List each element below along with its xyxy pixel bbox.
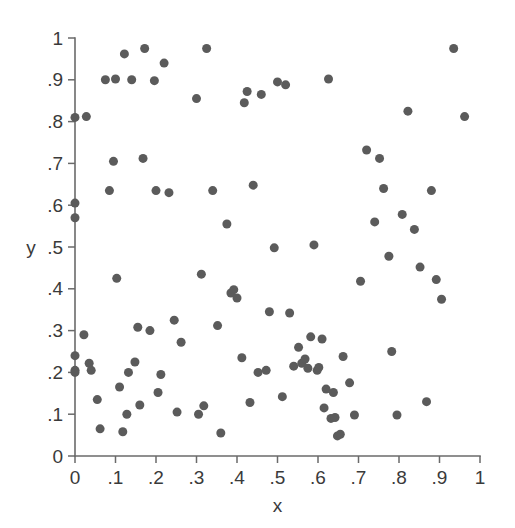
scatter-point — [152, 186, 161, 195]
scatter-point — [273, 77, 282, 86]
scatter-point — [192, 94, 201, 103]
x-tick-label: .5 — [270, 467, 286, 488]
scatter-point — [87, 366, 96, 375]
scatter-point — [156, 370, 165, 379]
scatter-point — [140, 44, 149, 53]
scatter-point — [229, 285, 238, 294]
scatter-point — [281, 80, 290, 89]
scatter-plot-canvas: 0.1.2.3.4.5.6.7.8.91 0.1.2.3.4.5.6.7.8.9… — [0, 0, 515, 528]
scatter-point — [213, 321, 222, 330]
scatter-point — [265, 307, 274, 316]
scatter-point — [71, 213, 80, 222]
scatter-point — [164, 188, 173, 197]
x-tick-label: .3 — [189, 467, 205, 488]
scatter-point — [384, 252, 393, 261]
scatter-point — [285, 309, 294, 318]
scatter-point — [173, 408, 182, 417]
scatter-point — [111, 74, 120, 83]
y-tick-label: .6 — [47, 195, 63, 216]
scatter-point — [115, 383, 124, 392]
scatter-point — [222, 220, 231, 229]
scatter-point — [270, 243, 279, 252]
x-tick-label: .4 — [229, 467, 245, 488]
scatter-point — [336, 430, 345, 439]
scatter-point — [416, 263, 425, 272]
scatter-point — [199, 401, 208, 410]
scatter-plot-figure: 0.1.2.3.4.5.6.7.8.91 0.1.2.3.4.5.6.7.8.9… — [0, 0, 515, 528]
scatter-point — [460, 112, 469, 121]
scatter-point — [362, 146, 371, 155]
scatter-point — [303, 364, 312, 373]
scatter-point — [350, 411, 359, 420]
x-tick-label: 1 — [475, 467, 486, 488]
scatter-point — [329, 388, 338, 397]
scatter-point — [71, 351, 80, 360]
scatter-point — [370, 217, 379, 226]
scatter-point — [254, 368, 263, 377]
scatter-point — [109, 157, 118, 166]
scatter-point — [124, 368, 133, 377]
y-axis-ticks — [68, 38, 75, 456]
scatter-point — [432, 275, 441, 284]
scatter-point — [345, 378, 354, 387]
scatter-point — [139, 154, 148, 163]
scatter-point — [154, 388, 163, 397]
scatter-point — [243, 87, 252, 96]
scatter-point — [216, 429, 225, 438]
x-tick-label: .7 — [351, 467, 367, 488]
x-axis-tick-labels: 0.1.2.3.4.5.6.7.8.91 — [70, 467, 486, 488]
scatter-point — [96, 424, 105, 433]
scatter-point — [240, 98, 249, 107]
x-tick-label: .2 — [148, 467, 164, 488]
y-tick-label: .9 — [47, 69, 63, 90]
scatter-point — [449, 44, 458, 53]
scatter-point — [112, 274, 121, 283]
scatter-point — [150, 76, 159, 85]
scatter-point — [339, 352, 348, 361]
scatter-point — [93, 395, 102, 404]
y-tick-label: 0 — [52, 446, 63, 467]
scatter-point — [135, 401, 144, 410]
scatter-point — [122, 410, 131, 419]
x-tick-label: .8 — [391, 467, 407, 488]
scatter-point — [437, 295, 446, 304]
scatter-point — [294, 343, 303, 352]
scatter-point — [257, 90, 266, 99]
scatter-point — [118, 427, 127, 436]
scatter-point — [331, 413, 340, 422]
scatter-point — [127, 75, 136, 84]
scatter-point — [318, 334, 327, 343]
y-tick-label: .3 — [47, 320, 63, 341]
x-axis-ticks — [75, 456, 480, 463]
scatter-point — [160, 59, 169, 68]
scatter-point — [82, 112, 91, 121]
scatter-point — [170, 316, 179, 325]
scatter-point — [197, 270, 206, 279]
scatter-point — [422, 397, 431, 406]
scatter-point — [233, 294, 242, 303]
scatter-point — [130, 357, 139, 366]
scatter-point — [410, 225, 419, 234]
y-tick-label: .7 — [47, 153, 63, 174]
scatter-point — [379, 184, 388, 193]
scatter-point — [194, 410, 203, 419]
scatter-point — [177, 338, 186, 347]
y-tick-label: 1 — [52, 28, 63, 49]
scatter-point — [387, 347, 396, 356]
y-tick-label: .1 — [47, 404, 63, 425]
y-tick-label: .2 — [47, 362, 63, 383]
scatter-point — [145, 326, 154, 335]
scatter-point — [71, 199, 80, 208]
scatter-point — [245, 398, 254, 407]
scatter-point — [309, 240, 318, 249]
scatter-points-group — [71, 44, 470, 440]
scatter-point — [202, 44, 211, 53]
scatter-point — [278, 392, 287, 401]
scatter-point — [208, 186, 217, 195]
x-axis-title: x — [273, 495, 283, 516]
x-tick-label: .1 — [108, 467, 124, 488]
scatter-point — [324, 74, 333, 83]
scatter-point — [356, 277, 365, 286]
scatter-point — [105, 186, 114, 195]
scatter-point — [392, 411, 401, 420]
